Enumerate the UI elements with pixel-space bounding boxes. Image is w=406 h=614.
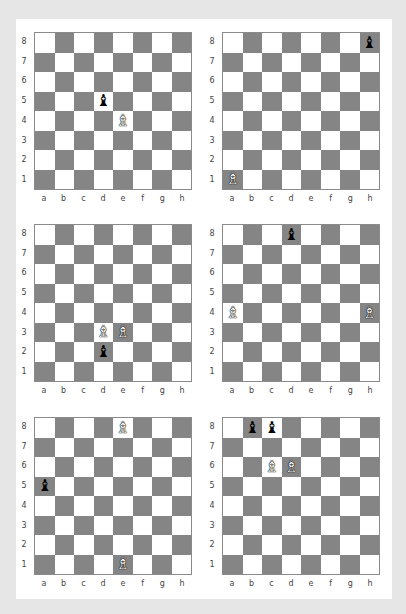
square-f6: [321, 72, 341, 92]
file-label: b: [54, 194, 74, 203]
square-a6: [223, 72, 243, 92]
file-label: f: [321, 194, 341, 203]
square-f8: [321, 225, 341, 245]
square-h1: [360, 170, 380, 190]
square-c4: [262, 496, 282, 516]
file-label: e: [301, 194, 321, 203]
square-e6: [113, 264, 133, 284]
square-f4: [133, 496, 153, 516]
square-f4: [321, 496, 341, 516]
file-label: d: [281, 579, 301, 588]
rank-label: 1: [19, 175, 29, 184]
rank-label: 2: [207, 155, 217, 164]
square-g3: [340, 323, 360, 343]
square-b6: [55, 72, 75, 92]
square-f1: [133, 170, 153, 190]
square-g5: [152, 92, 172, 112]
square-d7: [94, 245, 114, 265]
square-f7: [133, 245, 153, 265]
square-h8: [360, 418, 380, 438]
file-label: d: [281, 386, 301, 395]
square-f5: [321, 284, 341, 304]
square-f3: [133, 516, 153, 536]
square-a7: [223, 53, 243, 73]
rank-label: 6: [207, 76, 217, 85]
square-c8: ♝: [262, 418, 282, 438]
square-e2: [113, 150, 133, 170]
square-f6: [133, 72, 153, 92]
square-a4: ♗: [223, 303, 243, 323]
white-bishop-icon: ♗: [116, 113, 130, 129]
square-b6: [55, 264, 75, 284]
square-d4: [282, 111, 302, 131]
square-e5: [113, 92, 133, 112]
rank-label: 3: [207, 136, 217, 145]
square-c4: [74, 111, 94, 131]
square-f5: [133, 477, 153, 497]
square-f4: [321, 303, 341, 323]
square-f3: [321, 516, 341, 536]
square-h2: [360, 150, 380, 170]
square-h4: [360, 111, 380, 131]
square-g6: [340, 72, 360, 92]
square-a8: [223, 418, 243, 438]
square-g2: [340, 535, 360, 555]
square-c4: [74, 303, 94, 323]
square-a3: [35, 131, 55, 151]
square-b6: [243, 457, 263, 477]
square-h5: [360, 92, 380, 112]
square-d3: [282, 323, 302, 343]
white-bishop-icon: ♗: [116, 420, 130, 436]
white-bishop-icon: ♗: [226, 171, 240, 187]
square-a2: [35, 535, 55, 555]
square-c7: [262, 245, 282, 265]
square-b5: [243, 92, 263, 112]
rank-label: 2: [207, 540, 217, 549]
file-label: a: [222, 386, 242, 395]
square-c8: [262, 33, 282, 53]
square-d4: [94, 303, 114, 323]
file-label: f: [321, 386, 341, 395]
square-b8: ♝: [243, 418, 263, 438]
square-a7: [35, 53, 55, 73]
square-d5: [94, 284, 114, 304]
square-h7: [172, 245, 192, 265]
square-d5: [282, 284, 302, 304]
square-e3: ♗: [113, 323, 133, 343]
square-h5: [172, 477, 192, 497]
square-c7: [262, 53, 282, 73]
rank-label: 6: [19, 76, 29, 85]
square-f6: [321, 264, 341, 284]
file-label: c: [262, 194, 282, 203]
square-h8: [360, 225, 380, 245]
square-g2: [152, 342, 172, 362]
square-e7: [113, 53, 133, 73]
square-g4: [340, 303, 360, 323]
square-a1: [35, 170, 55, 190]
square-f6: [133, 457, 153, 477]
square-d5: ♝: [94, 92, 114, 112]
square-a4: [223, 496, 243, 516]
rank-label: 6: [207, 461, 217, 470]
square-e7: [113, 245, 133, 265]
rank-label: 8: [207, 229, 217, 238]
square-d1: [282, 362, 302, 382]
square-a3: [223, 516, 243, 536]
square-d8: [94, 33, 114, 53]
square-f8: [133, 418, 153, 438]
square-c6: [74, 72, 94, 92]
rank-label: 7: [19, 57, 29, 66]
square-f4: [321, 111, 341, 131]
square-g5: [340, 92, 360, 112]
chess-board: ♝♗♗: [222, 224, 380, 382]
square-b4: [243, 496, 263, 516]
square-c6: [74, 264, 94, 284]
square-g5: [152, 477, 172, 497]
square-h2: [360, 342, 380, 362]
square-h7: [360, 53, 380, 73]
square-b1: [55, 170, 75, 190]
square-a5: [223, 477, 243, 497]
square-f6: [133, 264, 153, 284]
square-g6: [152, 457, 172, 477]
square-g4: [152, 496, 172, 516]
